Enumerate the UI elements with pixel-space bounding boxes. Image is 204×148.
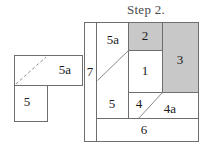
label-7: 7 bbox=[87, 64, 94, 79]
label-5a: 5a bbox=[107, 32, 120, 47]
diagram-title: Step 2. bbox=[127, 2, 165, 17]
diagram-canvas: Step 2. 5a 5 bbox=[0, 0, 204, 148]
dissection-diagram: Step 2. 5a 5 bbox=[0, 0, 204, 148]
left-label-5: 5 bbox=[24, 94, 31, 109]
label-4: 4 bbox=[136, 96, 143, 111]
main-square-figure: 7 5a 2 3 1 5 4 4a 6 bbox=[85, 23, 199, 142]
label-1: 1 bbox=[142, 63, 149, 78]
label-2: 2 bbox=[142, 28, 149, 43]
diagonal-cut-5a bbox=[98, 51, 129, 81]
left-label-5a: 5a bbox=[59, 62, 72, 77]
left-rect-5a bbox=[15, 56, 83, 86]
left-rect-5 bbox=[15, 86, 48, 122]
label-5: 5 bbox=[109, 96, 116, 111]
label-6: 6 bbox=[141, 122, 148, 137]
label-3: 3 bbox=[177, 52, 184, 67]
left-l-shape: 5a 5 bbox=[15, 56, 83, 122]
label-4a: 4a bbox=[164, 101, 177, 116]
left-dashed-diagonal bbox=[16, 57, 46, 84]
